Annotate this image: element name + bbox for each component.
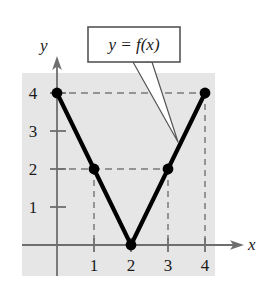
y-tick-label-2: 2 bbox=[25, 161, 41, 178]
function-graph-figure: y = f(x) y x 4 3 2 1 1 2 3 4 bbox=[0, 0, 271, 291]
data-point-4-4 bbox=[200, 88, 211, 99]
callout-label: y = f(x) bbox=[92, 36, 176, 53]
x-tick-label-1: 1 bbox=[86, 257, 102, 274]
x-tick-label-2: 2 bbox=[123, 257, 139, 274]
data-point-1-2 bbox=[89, 164, 100, 175]
guide-lines bbox=[57, 93, 205, 245]
x-tick-label-4: 4 bbox=[197, 257, 213, 274]
y-tick-label-4: 4 bbox=[25, 85, 41, 102]
y-tick-label-3: 3 bbox=[25, 123, 41, 140]
y-tick-label-1: 1 bbox=[25, 199, 41, 216]
data-point-0-4 bbox=[52, 88, 63, 99]
data-point-3-2 bbox=[163, 164, 174, 175]
x-axis-label: x bbox=[248, 236, 256, 253]
x-tick-label-3: 3 bbox=[160, 257, 176, 274]
callout-pointer bbox=[133, 62, 178, 142]
y-axis-label: y bbox=[40, 37, 48, 54]
data-point-2-0 bbox=[126, 240, 137, 251]
